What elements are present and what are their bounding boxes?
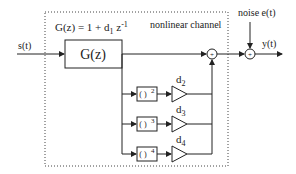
svg-text:( ): ( ): [139, 90, 147, 99]
gain-d4-triangle: [172, 146, 187, 162]
gain-d3-label: d3: [176, 103, 186, 118]
g-of-z-label: G(z): [80, 47, 106, 63]
gain-d4-label: d4: [176, 133, 186, 148]
noise-label: noise e(t): [238, 7, 276, 19]
branch-square: ( ) 2 d2: [122, 73, 212, 102]
gain-d3-triangle: [172, 116, 187, 132]
transfer-function-formula: G(z) = 1 + d1 z-1: [55, 20, 128, 36]
svg-text:+: +: [210, 51, 214, 59]
svg-text:( ): ( ): [139, 120, 147, 129]
branch-fourth-power: ( ) 4 d4: [122, 133, 212, 162]
branch-cube: ( ) 3 d3: [122, 103, 212, 132]
svg-text:+: +: [248, 51, 252, 59]
nonlinear-channel-diagram: G(z) = 1 + d1 z-1 nonlinear channel s(t)…: [0, 0, 296, 174]
svg-text:2: 2: [151, 87, 155, 95]
svg-text:4: 4: [151, 147, 155, 155]
input-label: s(t): [18, 40, 31, 52]
svg-text:3: 3: [151, 117, 155, 125]
gain-d2-triangle: [172, 86, 187, 102]
gain-d2-label: d2: [176, 73, 186, 88]
output-label: y(t): [262, 38, 276, 50]
channel-label: nonlinear channel: [150, 19, 222, 30]
svg-text:( ): ( ): [139, 150, 147, 159]
